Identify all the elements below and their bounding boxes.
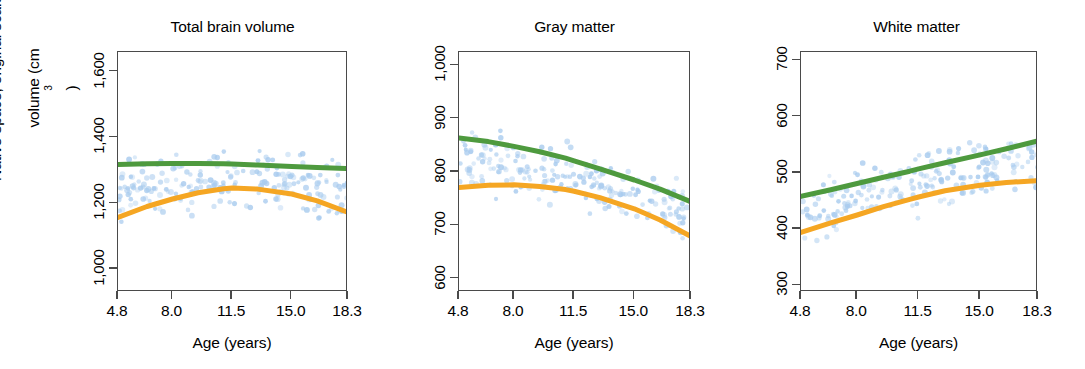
y-tick-label: 1,000: [90, 238, 107, 296]
y-tick-mark: [792, 171, 800, 172]
y-tick-label: 400: [773, 199, 790, 257]
x-tick-mark: [171, 291, 172, 299]
x-axis-title-total-brain-volume: Age (years): [117, 334, 347, 352]
y-tick-label: 700: [431, 195, 448, 253]
x-tick-label: 4.8: [428, 302, 488, 320]
x-axis-title-white-matter: Age (years): [800, 334, 1037, 352]
x-tick-label: 4.8: [87, 302, 147, 320]
x-tick-mark: [572, 291, 573, 299]
y-tick-mark: [450, 277, 458, 278]
panel-title-white-matter: White matter: [779, 18, 1054, 36]
x-tick-label: 18.3: [660, 302, 720, 320]
y-tick-mark: [792, 284, 800, 285]
plot-area-gray-matter: [458, 51, 690, 291]
x-tick-mark: [457, 291, 458, 299]
x-tick-label: 8.0: [483, 302, 543, 320]
y-tick-label: 1,000: [431, 35, 448, 93]
plot-area-total-brain-volume: [117, 51, 347, 291]
panel-title-total-brain-volume: Total brain volume: [95, 18, 370, 36]
y-tick-mark: [109, 70, 117, 71]
y-axis-title-line1: Native space, original scale: [0, 0, 5, 181]
x-tick-label: 15.0: [261, 302, 321, 320]
x-tick-label: 8.0: [826, 302, 886, 320]
x-tick-mark: [689, 291, 690, 299]
x-tick-mark: [116, 291, 117, 299]
x-tick-mark: [633, 291, 634, 299]
plot-canvas-gray-matter: [459, 52, 690, 291]
y-tick-mark: [450, 117, 458, 118]
y-tick-label: 1,400: [90, 107, 107, 165]
y-tick-label: 1,600: [90, 41, 107, 99]
x-tick-mark: [1036, 291, 1037, 299]
x-tick-label: 15.0: [603, 302, 663, 320]
x-tick-label: 11.5: [543, 302, 603, 320]
x-tick-mark: [346, 291, 347, 299]
x-tick-label: 11.5: [888, 302, 948, 320]
y-tick-label: 500: [773, 142, 790, 200]
y-tick-mark: [109, 202, 117, 203]
x-tick-mark: [230, 291, 231, 299]
y-tick-mark: [450, 64, 458, 65]
y-axis-title-line2: volume (cm3): [24, 0, 81, 181]
y-tick-label: 700: [773, 30, 790, 88]
y-tick-mark: [109, 136, 117, 137]
plot-canvas-white-matter: [801, 52, 1037, 291]
y-tick-label: 900: [431, 88, 448, 146]
x-tick-mark: [917, 291, 918, 299]
x-tick-label: 15.0: [949, 302, 1009, 320]
y-tick-label: 600: [431, 248, 448, 306]
x-tick-mark: [512, 291, 513, 299]
y-tick-label: 600: [773, 86, 790, 144]
y-tick-mark: [792, 115, 800, 116]
panel-title-gray-matter: Gray matter: [437, 18, 712, 36]
y-tick-mark: [792, 227, 800, 228]
y-tick-label: 800: [431, 142, 448, 200]
x-axis-title-gray-matter: Age (years): [458, 334, 690, 352]
y-tick-mark: [792, 59, 800, 60]
x-tick-label: 18.3: [317, 302, 377, 320]
plot-area-white-matter: [800, 51, 1037, 291]
brain-volume-figure: Native space, original scale volume (cm3…: [0, 0, 1085, 369]
x-tick-label: 18.3: [1007, 302, 1067, 320]
scatter-points: [801, 140, 1037, 243]
x-tick-mark: [978, 291, 979, 299]
plot-canvas-total-brain-volume: [118, 52, 347, 291]
y-tick-mark: [109, 267, 117, 268]
x-tick-mark: [290, 291, 291, 299]
y-axis-title: Native space, original scale volume (cm3…: [5, 0, 61, 213]
x-tick-label: 8.0: [142, 302, 202, 320]
y-tick-label: 1,200: [90, 173, 107, 231]
y-tick-mark: [450, 224, 458, 225]
y-tick-mark: [450, 170, 458, 171]
x-tick-mark: [799, 291, 800, 299]
x-tick-mark: [855, 291, 856, 299]
x-tick-label: 4.8: [770, 302, 830, 320]
x-tick-label: 11.5: [201, 302, 261, 320]
